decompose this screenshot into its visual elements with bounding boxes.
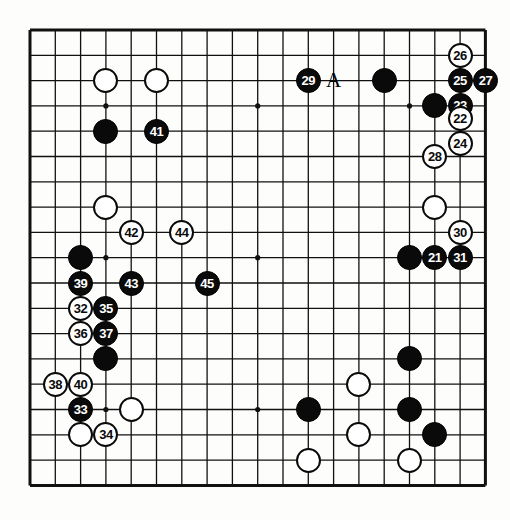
stone-move-number: 25	[453, 74, 466, 87]
stone-white[interactable]	[93, 195, 118, 220]
stone-black[interactable]	[93, 119, 118, 144]
stone-move-number: 28	[428, 150, 441, 163]
numbered-stone-black-41[interactable]: 41	[144, 119, 169, 144]
numbered-stone-white-38[interactable]: 38	[43, 372, 68, 397]
stone-white[interactable]	[119, 397, 144, 422]
numbered-stone-black-33[interactable]: 33	[68, 397, 93, 422]
stone-move-number: 40	[74, 378, 87, 391]
numbered-stone-white-24[interactable]: 24	[448, 131, 473, 156]
stone-white[interactable]	[144, 68, 169, 93]
numbered-stone-white-26[interactable]: 26	[448, 43, 473, 68]
numbered-stone-white-32[interactable]: 32	[68, 296, 93, 321]
stone-move-number: 38	[49, 378, 62, 391]
stone-move-number: 41	[150, 125, 163, 138]
stone-move-number: 22	[453, 112, 466, 125]
stone-move-number: 32	[74, 302, 87, 315]
star-point	[255, 407, 260, 412]
star-point	[255, 103, 260, 108]
stone-move-number: 37	[99, 327, 112, 340]
stone-move-number: 42	[124, 226, 137, 239]
stone-move-number: 34	[99, 428, 112, 441]
board-letter-marker: A	[322, 69, 346, 93]
numbered-stone-black-39[interactable]: 39	[68, 271, 93, 296]
stone-move-number: 43	[124, 277, 137, 290]
numbered-stone-black-31[interactable]: 31	[448, 245, 473, 270]
stone-move-number: 45	[200, 277, 213, 290]
stone-white[interactable]	[296, 448, 321, 473]
numbered-stone-white-42[interactable]: 42	[119, 220, 144, 245]
numbered-stone-black-45[interactable]: 45	[195, 271, 220, 296]
numbered-stone-white-22[interactable]: 22	[448, 106, 473, 131]
numbered-stone-black-27[interactable]: 27	[473, 68, 498, 93]
stone-black[interactable]	[296, 397, 321, 422]
numbered-stone-black-25[interactable]: 25	[448, 68, 473, 93]
star-point	[103, 103, 108, 108]
numbered-stone-white-30[interactable]: 30	[448, 220, 473, 245]
stone-black[interactable]	[372, 68, 397, 93]
numbered-stone-black-29[interactable]: 29	[296, 68, 321, 93]
stone-white[interactable]	[422, 195, 447, 220]
go-board-diagram: A292625272322244128424430213139434532353…	[0, 0, 510, 520]
numbered-stone-black-43[interactable]: 43	[119, 271, 144, 296]
stone-move-number: 24	[453, 137, 466, 150]
stone-move-number: 31	[453, 251, 466, 264]
stone-white[interactable]	[346, 372, 371, 397]
stone-move-number: 33	[74, 403, 87, 416]
star-point	[103, 255, 108, 260]
stone-move-number: 44	[175, 226, 188, 239]
stone-move-number: 21	[428, 251, 441, 264]
stone-move-number: 36	[74, 327, 87, 340]
star-point	[255, 255, 260, 260]
stone-move-number: 30	[453, 226, 466, 239]
numbered-stone-white-40[interactable]: 40	[68, 372, 93, 397]
stone-black[interactable]	[397, 397, 422, 422]
star-point	[103, 407, 108, 412]
stone-move-number: 27	[479, 74, 492, 87]
stone-move-number: 39	[74, 277, 87, 290]
stone-white[interactable]	[397, 448, 422, 473]
stone-move-number: 35	[99, 302, 112, 315]
stone-move-number: 26	[453, 49, 466, 62]
star-point	[407, 103, 412, 108]
stone-move-number: 29	[302, 74, 315, 87]
